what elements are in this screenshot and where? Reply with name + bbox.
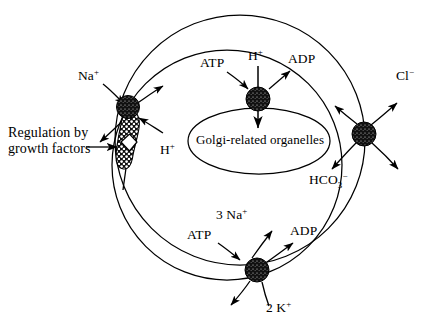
- hco3-influx-arrow: [372, 143, 398, 169]
- label-h-center: H+: [248, 48, 263, 63]
- na-h-exchanger-head: [117, 96, 140, 119]
- regulation-line-2: growth factors: [8, 141, 91, 157]
- label-golgi-related-organelles: Golgi-related organelles: [196, 133, 324, 148]
- na-efflux-arrow: [252, 231, 272, 258]
- cl-efflux-arrow: [371, 103, 397, 125]
- adp-out-arrow: [269, 71, 290, 89]
- label-atp-center: ATP: [200, 55, 224, 70]
- na-k-atpase-transporter: [245, 258, 269, 282]
- label-adp-bottom: ADP: [290, 223, 317, 238]
- label-atp-bottom: ATP: [187, 227, 211, 242]
- h-influx-arrow: [139, 118, 163, 133]
- cl-influx-arrow: [335, 106, 357, 124]
- diagram-svg: [0, 0, 436, 324]
- label-k-bottom: 2 K+: [266, 300, 291, 315]
- atp-in-arrow-bottom: [218, 243, 240, 260]
- label-regulation-by-growth-factors: Regulation by growth factors: [8, 125, 91, 156]
- figure-canvas: Na+ H+ Regulation by growth factors ATP …: [0, 0, 436, 324]
- label-na-left: Na+: [78, 68, 99, 83]
- label-na-bottom: 3 Na+: [216, 207, 247, 222]
- label-adp-center: ADP: [288, 51, 315, 66]
- label-hco3-right: HCO3−: [309, 172, 348, 187]
- regulation-line-1: Regulation by: [8, 125, 91, 141]
- cl-hco3-exchanger-transporter: [352, 122, 376, 146]
- hco3-efflux-arrow: [332, 143, 356, 169]
- atp-in-arrow: [227, 72, 248, 89]
- label-cl-right: Cl−: [396, 68, 414, 83]
- label-h-left: H+: [160, 142, 175, 157]
- k-transport-arrow: [231, 281, 250, 305]
- adp-out-arrow-bottom: [267, 243, 293, 262]
- h-atpase-transporter: [246, 87, 270, 111]
